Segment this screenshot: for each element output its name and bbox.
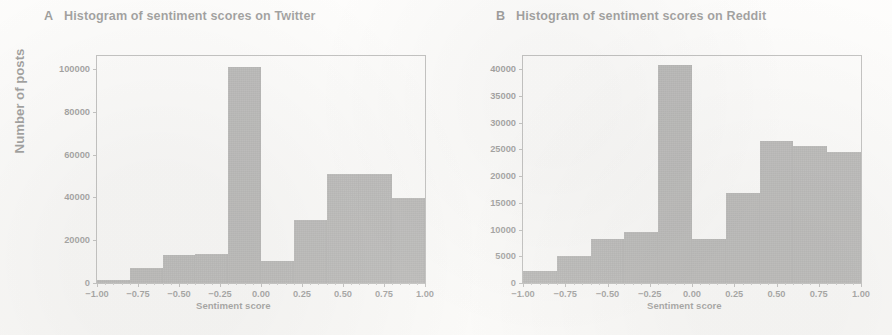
x-minor-tick-mark [743, 283, 744, 285]
x-tick-mark [734, 283, 735, 287]
x-minor-tick-mark [359, 283, 360, 285]
x-tick-label: 0.25 [725, 289, 743, 299]
x-tick-label: 0.25 [293, 289, 311, 299]
x-tick-label: 0.75 [810, 289, 828, 299]
x-minor-tick-mark [616, 283, 617, 285]
panel-a-plot-area: 020000400006000080000100000 −1.00−0.75−0… [96, 55, 426, 284]
y-tick-label: 5000 [495, 251, 516, 261]
x-minor-tick-mark [582, 283, 583, 285]
panel-b-bars [523, 56, 861, 283]
histogram-bar [130, 268, 163, 283]
x-tick-mark [819, 283, 820, 287]
x-tick-label: −0.75 [553, 289, 577, 299]
x-minor-tick-mark [253, 283, 254, 285]
x-minor-tick-mark [751, 283, 752, 285]
x-minor-tick-mark [351, 283, 352, 285]
y-tick-mark [93, 112, 97, 113]
x-tick-mark [179, 283, 180, 287]
x-minor-tick-mark [700, 283, 701, 285]
x-minor-tick-mark [122, 283, 123, 285]
y-tick-label: 20000 [64, 235, 90, 245]
y-tick-mark [519, 203, 523, 204]
x-minor-tick-mark [675, 283, 676, 285]
x-minor-tick-mark [245, 283, 246, 285]
x-minor-tick-mark [540, 283, 541, 285]
panel-b-letter: B [496, 9, 505, 23]
histogram-bar [793, 146, 827, 283]
x-minor-tick-mark [709, 283, 710, 285]
panel-a-bars [97, 56, 425, 283]
y-tick-label: 40000 [64, 192, 90, 202]
y-tick-mark [519, 230, 523, 231]
panel-b-title: Histogram of sentiment scores on Reddit [516, 9, 766, 23]
x-tick-mark [608, 283, 609, 287]
x-tick-label: −0.50 [167, 289, 191, 299]
y-tick-mark [519, 96, 523, 97]
x-minor-tick-mark [785, 283, 786, 285]
y-tick-label: 20000 [490, 171, 516, 181]
y-tick-label: 40000 [490, 64, 516, 74]
histogram-bar [163, 255, 196, 283]
x-minor-tick-mark [760, 283, 761, 285]
x-minor-tick-mark [793, 283, 794, 285]
x-minor-tick-mark [204, 283, 205, 285]
x-tick-label: 0.00 [252, 289, 270, 299]
x-minor-tick-mark [591, 283, 592, 285]
x-tick-mark [425, 283, 426, 287]
x-minor-tick-mark [599, 283, 600, 285]
x-tick-mark [650, 283, 651, 287]
y-tick-mark [93, 69, 97, 70]
x-tick-label: 1.00 [852, 289, 870, 299]
panel-a: A Histogram of sentiment scores on Twitt… [0, 0, 446, 335]
histogram-bar [692, 239, 726, 283]
histogram-bar [195, 254, 228, 283]
histogram-bar [359, 174, 392, 283]
x-tick-label: −0.25 [208, 289, 232, 299]
y-tick-mark [93, 155, 97, 156]
x-tick-label: −1.00 [511, 289, 535, 299]
x-tick-mark [97, 283, 98, 287]
x-minor-tick-mark [327, 283, 328, 285]
x-minor-tick-mark [269, 283, 270, 285]
x-minor-tick-mark [163, 283, 164, 285]
x-minor-tick-mark [277, 283, 278, 285]
x-tick-mark [861, 283, 862, 287]
x-tick-label: 0.75 [375, 289, 393, 299]
histogram-bar [557, 256, 591, 283]
x-minor-tick-mark [557, 283, 558, 285]
x-tick-label: −0.50 [596, 289, 620, 299]
panel-a-letter: A [44, 9, 53, 23]
x-tick-mark [692, 283, 693, 287]
y-tick-label: 30000 [490, 118, 516, 128]
x-minor-tick-mark [228, 283, 229, 285]
y-tick-mark [519, 123, 523, 124]
x-tick-mark [261, 283, 262, 287]
x-minor-tick-mark [236, 283, 237, 285]
x-minor-tick-mark [624, 283, 625, 285]
x-minor-tick-mark [376, 283, 377, 285]
histogram-bar [228, 67, 261, 283]
histogram-bar [294, 220, 327, 283]
x-minor-tick-mark [836, 283, 837, 285]
y-tick-mark [519, 256, 523, 257]
x-minor-tick-mark [409, 283, 410, 285]
x-minor-tick-mark [417, 283, 418, 285]
y-tick-label: 35000 [490, 91, 516, 101]
x-tick-mark [138, 283, 139, 287]
x-minor-tick-mark [844, 283, 845, 285]
y-tick-label: 0 [85, 278, 90, 288]
y-tick-mark [519, 149, 523, 150]
y-tick-mark [93, 240, 97, 241]
x-tick-label: 0.50 [767, 289, 785, 299]
x-tick-mark [220, 283, 221, 287]
panel-a-ylabel-wrap: Number of posts [14, 100, 30, 260]
x-minor-tick-mark [286, 283, 287, 285]
y-tick-label: 60000 [64, 150, 90, 160]
x-minor-tick-mark [335, 283, 336, 285]
x-minor-tick-mark [113, 283, 114, 285]
x-tick-mark [302, 283, 303, 287]
histogram-bar [523, 271, 557, 283]
histogram-bar [261, 261, 294, 283]
x-minor-tick-mark [171, 283, 172, 285]
panel-a-title: Histogram of sentiment scores on Twitter [64, 9, 315, 23]
